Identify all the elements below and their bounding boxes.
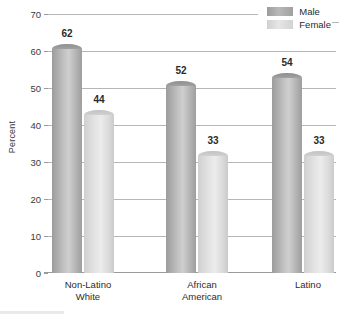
legend-item-female[interactable]: Female [267,18,331,31]
bar-body [304,156,334,273]
y-tick-label-20: 20 [30,194,41,205]
bar-male-non-latino-white[interactable]: 62 [52,44,82,273]
bar-body [52,49,82,273]
bar-female-african-american[interactable]: 33 [198,151,228,273]
bar-value-label: 44 [93,94,104,105]
y-tick-label-30: 30 [30,157,41,168]
scan-artifact [0,311,64,314]
legend-label-female: Female [299,19,331,30]
y-tick-mark-30 [44,162,48,163]
x-category-label-latino: Latino [262,279,339,291]
bar-body [198,156,228,273]
x-category-line-2: American [156,291,248,303]
y-tick-label-60: 60 [30,46,41,57]
bar-male-latino[interactable]: 54 [272,73,302,273]
bar-chart: Percent 70 60 50 40 30 20 10 [0,0,339,316]
y-tick-label-0: 0 [36,268,41,279]
plot-area: 70 60 50 40 30 20 10 0 [48,14,336,273]
y-tick-mark-20 [44,199,48,200]
y-tick-mark-50 [44,88,48,89]
bar-value-label: 33 [313,135,324,146]
y-tick-mark-70 [44,14,48,15]
x-category-label-african-american: African American [156,279,248,303]
y-tick-label-50: 50 [30,83,41,94]
legend-item-male[interactable]: Male [267,5,331,18]
bar-value-label: 52 [175,65,186,76]
bar-male-african-american[interactable]: 52 [166,81,196,273]
gridline-70-stub [332,22,339,23]
y-tick-label-70: 70 [30,9,41,20]
x-category-line-1: Latino [262,279,339,291]
y-tick-label-40: 40 [30,120,41,131]
bar-body [84,115,114,273]
legend-swatch-female-icon [267,20,293,29]
y-tick-mark-0 [44,273,48,274]
bar-value-label: 33 [207,135,218,146]
legend-swatch-male-icon [267,7,293,16]
bar-female-latino[interactable]: 33 [304,151,334,273]
bar-female-non-latino-white[interactable]: 44 [84,110,114,273]
y-tick-mark-60 [44,51,48,52]
x-category-line-2: White [42,291,134,303]
y-axis-title: Percent [7,107,17,167]
gridline-60: 60 [48,51,336,52]
bar-body [166,86,196,273]
bar-value-label: 62 [61,28,72,39]
y-tick-label-10: 10 [30,231,41,242]
gridline-0: 0 [48,273,336,274]
gridline-70: 70 [48,14,258,15]
x-category-label-non-latino-white: Non-Latino White [42,279,134,303]
x-category-line-1: Non-Latino [42,279,134,291]
legend-label-male: Male [299,6,320,17]
x-category-line-1: African [156,279,248,291]
y-tick-mark-40 [44,125,48,126]
legend: Male Female [263,3,333,33]
y-tick-mark-10 [44,236,48,237]
bar-value-label: 54 [281,57,292,68]
bar-body [272,78,302,273]
